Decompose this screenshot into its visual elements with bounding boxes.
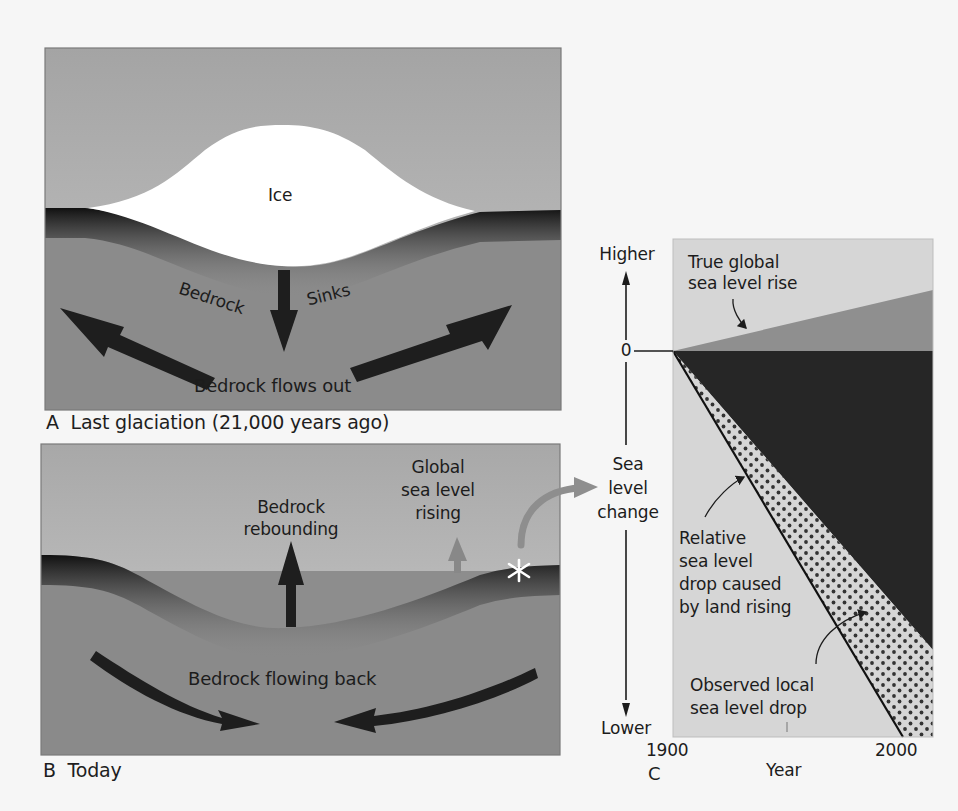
x-axis-start-label: 1900 <box>646 742 688 759</box>
rebounding-label: Bedrock rebounding <box>226 496 356 540</box>
ice-label: Ice <box>268 187 292 204</box>
true-rise-label: True global sea level rise <box>688 252 797 294</box>
y-axis-down-arrow-icon <box>622 703 630 717</box>
figure-canvas <box>0 0 958 811</box>
panel-b-letter: B <box>43 759 56 781</box>
x-axis-end-label: 2000 <box>875 742 917 759</box>
panel-a-caption: A Last glaciation (21,000 years ago) <box>46 413 389 432</box>
y-axis-up-arrow-icon <box>622 271 630 285</box>
x-axis-title: Year <box>766 762 801 779</box>
flowing-back-label: Bedrock flowing back <box>188 670 376 688</box>
flows-out-label: Bedrock flows out <box>194 377 351 395</box>
panel-a-diagram <box>45 48 561 410</box>
y-axis-zero-label: 0 <box>617 342 635 359</box>
y-axis-title: Sea level change <box>588 452 668 524</box>
relative-drop-label: Relative sea level drop caused by land r… <box>679 527 791 619</box>
panel-b-title: Today <box>68 759 122 781</box>
panel-c-chart <box>622 239 933 737</box>
panel-c-letter: C <box>648 765 660 783</box>
y-axis-lower-label: Lower <box>590 720 662 737</box>
y-axis-higher-label: Higher <box>592 246 662 263</box>
panel-a-title: Last glaciation (21,000 years ago) <box>71 411 390 433</box>
observed-drop-label: Observed local sea level drop <box>690 674 814 720</box>
global-rising-label: Global sea level rising <box>388 456 488 525</box>
panel-b-caption: B Today <box>43 761 121 780</box>
panel-a-letter: A <box>46 411 59 433</box>
